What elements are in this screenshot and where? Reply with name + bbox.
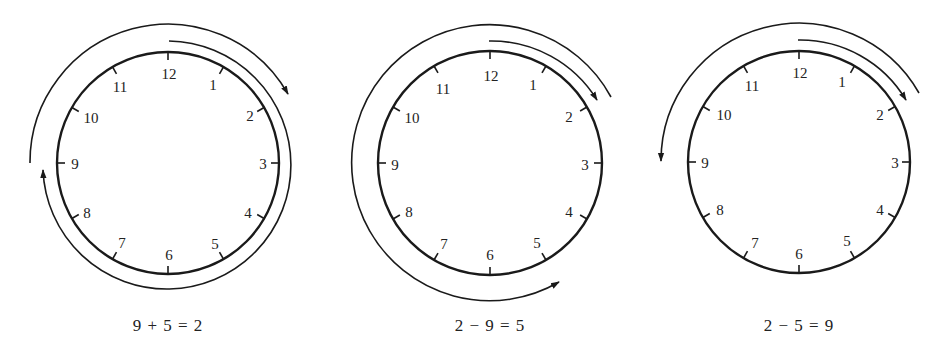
clock-face xyxy=(57,52,279,274)
clock-arithmetic-figure: 12 1 2 3 4 5 6 7 8 9 10 11 9 + 5 = 2 xyxy=(0,0,950,352)
equation-caption: 2 − 9 = 5 xyxy=(455,316,526,335)
hour-4: 4 xyxy=(565,204,573,220)
equation-caption: 9 + 5 = 2 xyxy=(133,316,204,335)
clock-add: 12 1 2 3 4 5 6 7 8 9 10 11 9 + 5 = 2 xyxy=(30,24,291,335)
clock-sub-2: 12 1 2 3 4 5 6 7 8 9 10 11 2 − 5 = 9 xyxy=(661,23,919,335)
hour-6: 6 xyxy=(795,246,803,262)
hour-4: 4 xyxy=(244,205,252,221)
hour-11: 11 xyxy=(113,79,127,95)
hour-6: 6 xyxy=(165,247,173,263)
hour-12: 12 xyxy=(793,65,808,81)
hour-8: 8 xyxy=(716,202,724,218)
hour-12: 12 xyxy=(162,66,177,82)
hour-2: 2 xyxy=(876,107,884,123)
clock-face xyxy=(378,51,602,275)
hour-6: 6 xyxy=(486,247,494,263)
equation-caption: 2 − 5 = 9 xyxy=(764,316,835,335)
hour-11: 11 xyxy=(436,81,450,97)
clock-sub-1: 12 1 2 3 4 5 6 7 8 9 10 11 2 − 9 = 5 xyxy=(352,25,611,335)
hour-numbers: 12 1 2 3 4 5 6 7 8 9 10 11 xyxy=(701,65,899,262)
hour-11: 11 xyxy=(745,78,759,94)
hour-3: 3 xyxy=(259,156,267,172)
hour-12: 12 xyxy=(484,68,499,84)
hour-9: 9 xyxy=(391,157,399,173)
hour-9: 9 xyxy=(71,156,79,172)
hour-4: 4 xyxy=(876,202,884,218)
hour-10: 10 xyxy=(405,110,420,126)
arc-arrow-2-to-9 xyxy=(661,23,919,161)
arc-arrow-9-to-2 xyxy=(30,24,288,163)
hour-8: 8 xyxy=(83,205,91,221)
hour-5: 5 xyxy=(533,235,541,251)
hour-7: 7 xyxy=(118,235,126,251)
hour-numbers: 12 1 2 3 4 5 6 7 8 9 10 11 xyxy=(391,68,589,263)
hour-3: 3 xyxy=(581,157,589,173)
hour-8: 8 xyxy=(405,204,413,220)
hour-5: 5 xyxy=(211,236,219,252)
hour-10: 10 xyxy=(717,107,732,123)
hour-3: 3 xyxy=(891,155,899,171)
hour-2: 2 xyxy=(565,109,573,125)
hour-5: 5 xyxy=(843,233,851,249)
hour-1: 1 xyxy=(209,77,217,93)
hour-7: 7 xyxy=(440,236,448,252)
clock-face xyxy=(688,51,910,273)
hour-7: 7 xyxy=(751,235,759,251)
hour-1: 1 xyxy=(529,77,537,93)
hour-10: 10 xyxy=(84,110,99,126)
hour-numbers: 12 1 2 3 4 5 6 7 8 9 10 11 xyxy=(71,66,267,263)
hour-1: 1 xyxy=(838,74,846,90)
hour-2: 2 xyxy=(246,108,254,124)
hour-9: 9 xyxy=(701,155,709,171)
